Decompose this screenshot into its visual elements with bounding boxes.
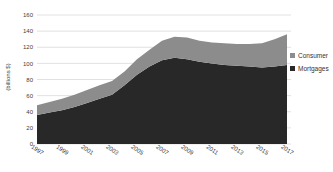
x-tick-label: 1999 bbox=[55, 144, 70, 157]
y-tick-label: 120 bbox=[23, 44, 34, 50]
chart-container: (billions $) 020406080100120140160199719… bbox=[0, 0, 333, 172]
legend-item-consumer[interactable]: Consumer bbox=[290, 52, 329, 59]
x-tick-label: 2003 bbox=[105, 144, 120, 157]
plot-area: 0204060801001201401601997199920012003200… bbox=[0, 0, 333, 172]
y-tick-label: 20 bbox=[26, 125, 33, 131]
legend-label-mortgages: Mortgages bbox=[298, 65, 329, 72]
x-tick-label: 2005 bbox=[130, 144, 145, 157]
legend: Consumer Mortgages bbox=[290, 52, 329, 72]
y-tick-label: 140 bbox=[23, 28, 34, 34]
y-tick-label: 100 bbox=[23, 61, 34, 67]
x-tick-label: 2001 bbox=[80, 144, 95, 157]
legend-item-mortgages[interactable]: Mortgages bbox=[290, 65, 329, 72]
x-tick-label: 2015 bbox=[255, 144, 270, 157]
y-tick-label: 60 bbox=[26, 93, 33, 99]
y-tick-label: 40 bbox=[26, 109, 33, 115]
mortgages-swatch-icon bbox=[290, 66, 295, 71]
x-tick-label: 1997 bbox=[30, 144, 45, 157]
x-tick-label: 2007 bbox=[155, 144, 170, 157]
y-tick-label: 160 bbox=[23, 12, 34, 18]
x-tick-label: 2013 bbox=[230, 144, 245, 157]
y-tick-label: 80 bbox=[26, 77, 33, 83]
legend-label-consumer: Consumer bbox=[298, 52, 328, 59]
consumer-swatch-icon bbox=[290, 53, 295, 58]
x-tick-label: 2011 bbox=[205, 144, 220, 157]
x-tick-label: 2009 bbox=[180, 144, 195, 157]
x-tick-label: 2017 bbox=[280, 144, 295, 157]
